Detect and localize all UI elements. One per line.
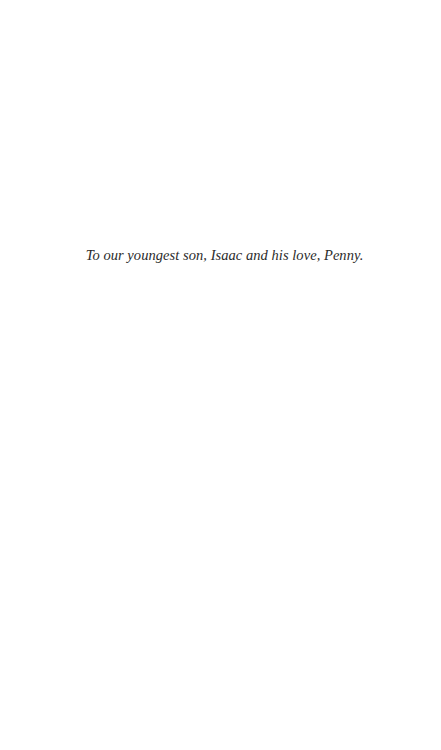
book-page: To our youngest son, Isaac and his love,…: [0, 0, 441, 750]
dedication-text: To our youngest son, Isaac and his love,…: [0, 246, 441, 264]
